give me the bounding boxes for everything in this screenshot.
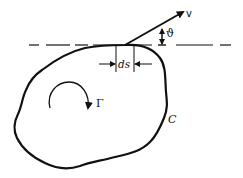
velocity-label: v [186,8,192,19]
circulation-label: Γ [96,97,104,110]
angle-marker [158,29,166,45]
circulation-arrow [49,82,88,108]
velocity-arrow [125,12,183,45]
angle-label: ϑ [166,27,174,40]
ds-label: ds [118,58,131,70]
contour-curve [14,45,166,168]
contour-label: C [168,113,177,126]
circulation-diagram: v ϑ ds Γ C [0,0,243,178]
